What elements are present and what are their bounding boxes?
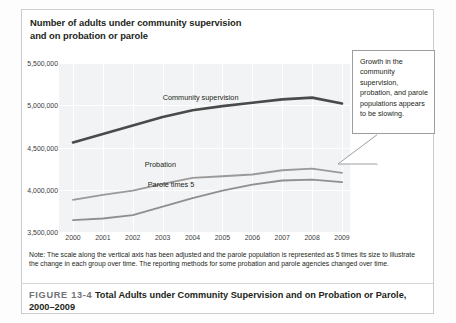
caption-divider bbox=[22, 283, 433, 284]
series-label: Probation bbox=[145, 160, 176, 169]
x-axis-tick: 2005 bbox=[215, 234, 230, 241]
chart-title: Number of adults under community supervi… bbox=[30, 17, 330, 42]
figure-page: Number of adults under community supervi… bbox=[0, 0, 456, 323]
x-axis-tick: 2008 bbox=[304, 234, 319, 241]
chart-title-line-1: Number of adults under community supervi… bbox=[30, 17, 330, 30]
series-label: Community supervision bbox=[163, 93, 239, 102]
horizontal-gridline bbox=[59, 232, 350, 233]
figure-number: FIGURE 13-4 bbox=[29, 290, 92, 300]
x-axis-tick-labels: 2000200120022003200420052006200720082009 bbox=[59, 234, 350, 246]
x-axis-tick: 2000 bbox=[65, 234, 80, 241]
chart-note: Note: The scale along the vertical axis … bbox=[29, 250, 419, 268]
callout-box: Growth in the community supervision, pro… bbox=[352, 50, 435, 134]
series-lines bbox=[59, 63, 350, 232]
series-line bbox=[73, 98, 342, 143]
x-axis-tick: 2009 bbox=[334, 234, 349, 241]
figure-caption: FIGURE 13-4 Total Adults under Community… bbox=[29, 289, 427, 314]
series-line bbox=[73, 180, 342, 221]
x-axis-tick: 2004 bbox=[185, 234, 200, 241]
y-axis-tick: 4,000,000 bbox=[27, 186, 58, 193]
x-axis-tick: 2003 bbox=[155, 234, 170, 241]
x-axis-tick: 2002 bbox=[125, 234, 140, 241]
chart-plot-wrapper: 3,500,0004,000,0004,500,0005,000,0005,50… bbox=[28, 56, 350, 242]
series-label: Parole times 5 bbox=[148, 180, 195, 189]
x-axis-tick: 2001 bbox=[95, 234, 110, 241]
y-axis-tick: 5,000,000 bbox=[27, 102, 58, 109]
plot-area bbox=[59, 63, 350, 232]
x-axis-tick: 2006 bbox=[245, 234, 260, 241]
y-axis-tick: 3,500,000 bbox=[27, 229, 58, 236]
callout-pointer-icon bbox=[337, 133, 379, 165]
x-axis-tick: 2007 bbox=[275, 234, 290, 241]
y-axis-tick-labels: 3,500,0004,000,0004,500,0005,000,0005,50… bbox=[28, 56, 58, 242]
y-axis-tick: 5,500,000 bbox=[27, 60, 58, 67]
y-axis-tick: 4,500,000 bbox=[27, 144, 58, 151]
chart-title-line-2: and on probation or parole bbox=[30, 30, 330, 43]
